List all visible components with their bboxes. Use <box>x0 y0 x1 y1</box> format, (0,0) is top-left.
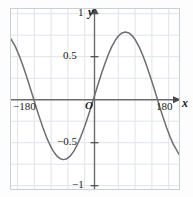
y-tick-label-0.5: 0.5 <box>63 50 77 61</box>
x-axis-label: x <box>182 97 188 109</box>
y-tick-label-1: 1 <box>78 7 84 18</box>
y-axis-label: y <box>88 6 93 18</box>
x-tick-label-180: 180 <box>156 101 173 112</box>
plot-area <box>10 8 180 190</box>
graph-canvas <box>11 9 179 189</box>
y-tick-label-neg0.5: −0.5 <box>57 136 77 147</box>
page-artifact-mark: · <box>84 190 94 195</box>
sine-graph-figure: y x O 1 0.5 −0.5 −1 −180 180 · <box>0 0 193 197</box>
y-tick-label-neg1: −1 <box>72 179 84 190</box>
origin-label: O <box>85 100 93 111</box>
x-tick-label-neg180: −180 <box>13 101 36 112</box>
